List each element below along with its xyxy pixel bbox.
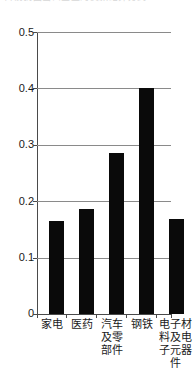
bar-dianzicailiao [169,219,184,314]
x-axis-label-qichejiling: 汽车及零部件 [97,318,127,357]
bar-gangtie [139,88,154,314]
bar-jiadian [49,221,64,314]
clipped-header-text-label: 目前我国出口企业的货款结算方式 [0,0,184,2]
plot-area [37,32,171,314]
y-tick-label-0.1: 0.1 [4,252,34,263]
y-tick-label-0: 0 [4,308,34,319]
bar-yiyao [79,209,94,314]
x-axis-label-yiyao: 医药 [67,318,97,331]
gridline-0.5 [37,32,171,33]
x-axis-label-jiadian: 家电 [37,318,67,331]
x-axis-label-gangtie: 钢铁 [127,318,157,331]
clipped-header-text: 目前我国出口企业的货款结算方式 [0,0,184,11]
y-tick-label-0.5: 0.5 [4,27,34,38]
x-axis-label-dianzicailiao: 电子材料及电子元器件 [157,318,193,370]
y-tick-label-0.4: 0.4 [4,83,34,94]
y-tick-label-0.3: 0.3 [4,139,34,150]
bar-chart: 0.5 0.4 0.3 0.2 0.1 0 [0,14,184,358]
gridline-baseline-0 [37,314,171,315]
bar-qichejiling [109,153,124,314]
y-tick-label-0.2: 0.2 [4,196,34,207]
